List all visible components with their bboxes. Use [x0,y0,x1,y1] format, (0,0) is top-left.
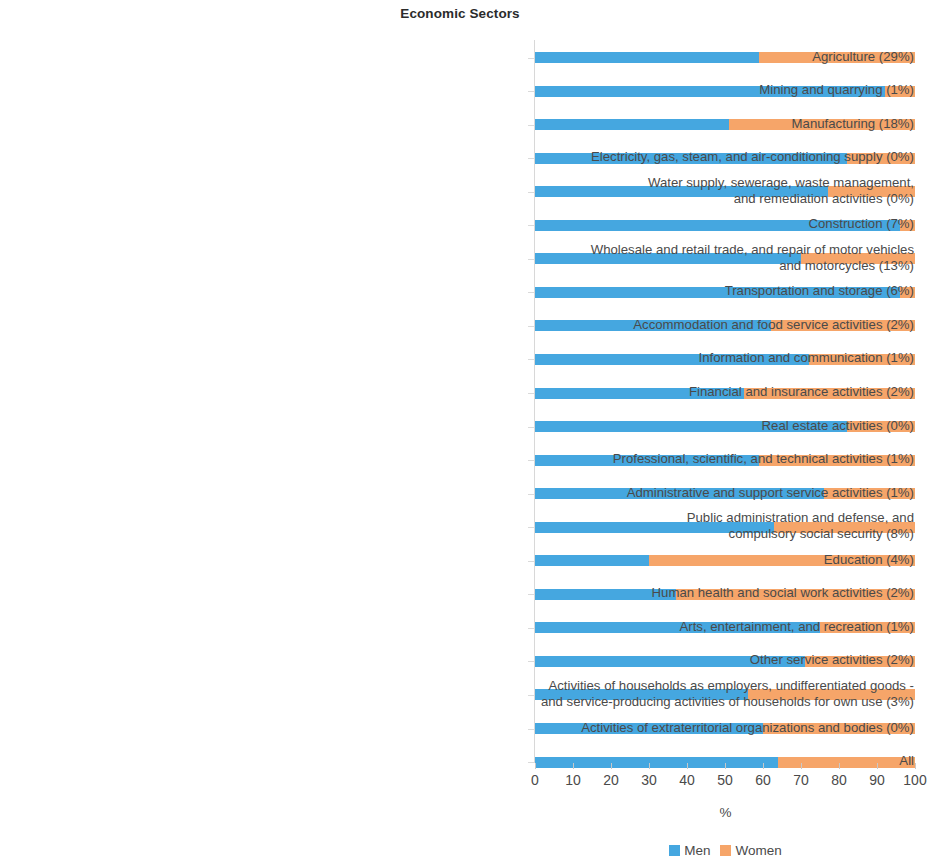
x-axis-tick [801,763,802,769]
chart-legend: MenWomen [535,843,916,858]
y-axis-tick [528,91,534,92]
y-axis-label: Information and communication (1%) [393,350,921,366]
y-axis-label: Other service activities (2%) [393,652,921,668]
y-axis-label: Manufacturing (18%) [393,116,921,132]
y-axis-tick [528,393,534,394]
y-axis-tick [528,460,534,461]
y-axis-label: Construction (7%) [393,216,921,232]
x-axis-tick-label: 50 [705,772,745,788]
y-axis-label: Administrative and support service activ… [393,485,921,501]
x-axis-tick [611,763,612,769]
x-axis-tick-label: 30 [629,772,669,788]
x-axis-tick-label: 0 [515,772,555,788]
x-axis-tick [573,763,574,769]
x-axis-tick [535,763,536,769]
y-axis-label: Real estate activities (0%) [393,418,921,434]
x-axis-tick-label: 80 [819,772,859,788]
y-axis-label: Human health and social work activities … [393,585,921,601]
y-axis-tick [528,158,534,159]
y-axis-label: All [393,753,921,769]
y-axis-label: Activities of extraterritorial organizat… [393,720,921,736]
y-axis-tick [528,192,534,193]
y-axis-tick [528,594,534,595]
x-axis-tick [763,763,764,769]
y-axis-tick [528,326,534,327]
y-axis-tick [528,427,534,428]
y-axis-label: Mining and quarrying (1%) [393,82,921,98]
x-axis-tick [915,763,916,769]
x-axis-tick-label: 60 [743,772,783,788]
y-axis-tick [528,661,534,662]
y-axis-label: Accommodation and food service activitie… [393,317,921,333]
y-axis-tick [528,527,534,528]
chart-title-text: Economic Sectors [400,6,519,21]
legend-label: Women [735,843,781,858]
y-axis-tick [528,762,534,763]
x-axis-tick-label: 70 [781,772,821,788]
x-axis-tick-label: 10 [553,772,593,788]
y-axis-label: Wholesale and retail trade, and repair o… [393,242,921,274]
y-axis-label: Public administration and defense, and c… [393,510,921,542]
legend-label: Men [684,843,710,858]
x-axis-tick [839,763,840,769]
y-axis-tick [528,58,534,59]
y-axis-label: Arts, entertainment, and recreation (1%) [393,619,921,635]
y-axis-tick [528,695,534,696]
x-axis-tick [725,763,726,769]
y-axis-tick [528,292,534,293]
y-axis-label: Professional, scientific, and technical … [393,451,921,467]
y-axis-label: Electricity, gas, steam, and air-conditi… [393,149,921,165]
y-axis-label: Transportation and storage (6%) [393,283,921,299]
legend-item[interactable]: Women [720,843,781,858]
legend-swatch-men [669,845,680,856]
legend-swatch-women [720,845,731,856]
x-axis-tick [649,763,650,769]
legend-item[interactable]: Men [669,843,710,858]
y-axis-label: Agriculture (29%) [393,49,921,65]
chart-title: Economic Sectors [0,6,921,21]
y-axis-tick [528,259,534,260]
y-axis-label: Financial and insurance activities (2%) [393,384,921,400]
y-axis-tick [528,225,534,226]
y-axis-label: Water supply, sewerage, waste management… [393,175,921,207]
x-axis-tick-label: 20 [591,772,631,788]
y-axis-tick [528,494,534,495]
x-axis-tick [877,763,878,769]
x-axis-title: % [535,805,916,820]
x-axis-tick-label: 100 [895,772,931,788]
y-axis-tick [528,561,534,562]
x-axis-tick [687,763,688,769]
x-axis-tick-label: 90 [857,772,897,788]
y-axis-tick [528,359,534,360]
x-axis-tick-label: 40 [667,772,707,788]
y-axis-tick [528,125,534,126]
y-axis-tick [528,729,534,730]
y-axis-label: Education (4%) [393,552,921,568]
y-axis-label: Activities of households as employers, u… [393,678,921,710]
y-axis-tick [528,628,534,629]
